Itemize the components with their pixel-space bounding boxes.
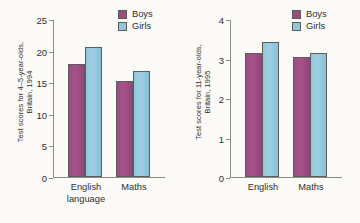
- x-axis-line-left: [53, 177, 165, 178]
- x-axis-label-english: English: [248, 182, 279, 194]
- bar-group-maths: Maths: [293, 20, 329, 177]
- bar-group-english: English: [245, 20, 281, 177]
- y-tick-label-10: 10: [36, 109, 47, 120]
- x-axis-label-english-line1: English: [248, 182, 279, 192]
- x-axis-label-english-language: English language: [67, 182, 105, 205]
- x-axis-label-maths: Maths: [298, 182, 323, 194]
- plot-area-left: 25 20 15 10 5 0: [53, 20, 165, 178]
- legend-item-boys-left: Boys: [118, 9, 153, 19]
- legend-label-boys: Boys: [306, 9, 327, 19]
- y-axis-title-right-line2: Britain, 1995: [203, 71, 212, 114]
- y-tick-label-25: 25: [36, 15, 47, 26]
- y-tick-label-20: 20: [36, 46, 47, 57]
- chart-panel-4-5-year-olds: Test scores for 4–5-year-olds, Britain, …: [0, 0, 180, 223]
- y-axis-title-left: Test scores for 4–5-year-olds, Britain, …: [10, 9, 40, 175]
- bar-english-boys[interactable]: [245, 53, 262, 177]
- legend-label-boys: Boys: [132, 9, 153, 19]
- bars-right: English Maths: [231, 20, 342, 177]
- x-axis-label-english-language-line2: language: [67, 194, 105, 204]
- legend-swatch-boys-icon: [292, 10, 301, 19]
- y-tick-label-0: 0: [42, 173, 47, 184]
- y-axis-title-right-line1: Test scores for 11-year-olds,: [194, 44, 203, 140]
- x-axis-line-right: [230, 177, 342, 178]
- chart-page: Test scores for 4–5-year-olds, Britain, …: [0, 0, 360, 223]
- legend-item-boys-right: Boys: [292, 9, 327, 19]
- bar-maths-boys[interactable]: [116, 81, 133, 177]
- bar-maths-girls[interactable]: [310, 53, 327, 177]
- bar-english-girls[interactable]: [85, 47, 102, 177]
- bar-maths-boys[interactable]: [293, 57, 310, 177]
- y-axis-title-left-line1: Test scores for 4–5-year-olds,: [16, 42, 25, 142]
- chart-panel-11-year-olds: Test scores for 11-year-olds, Britain, 1…: [180, 0, 360, 223]
- y-tick-label-3: 3: [219, 54, 224, 65]
- x-axis-label-maths-line1: Maths: [121, 182, 146, 192]
- y-tick-label-0: 0: [219, 173, 224, 184]
- bar-maths-girls[interactable]: [133, 71, 150, 177]
- y-tick-label-15: 15: [36, 78, 47, 89]
- bar-group-maths: Maths: [116, 20, 152, 177]
- x-axis-label-english-language-line1: English: [71, 182, 102, 192]
- bar-group-english-language: English language: [68, 20, 104, 177]
- y-axis-title-right: Test scores for 11-year-olds, Britain, 1…: [188, 9, 218, 175]
- bar-english-girls[interactable]: [262, 42, 279, 178]
- bars-left: English language Maths: [54, 20, 165, 177]
- legend-swatch-boys-icon: [118, 10, 127, 19]
- x-axis-label-maths-line1: Maths: [298, 182, 323, 192]
- plot-area-right: 4 3 2 1 0: [230, 20, 342, 178]
- bar-english-boys[interactable]: [68, 64, 85, 177]
- y-tick-label-1: 1: [219, 133, 224, 144]
- y-tick-label-5: 5: [42, 141, 47, 152]
- y-axis-title-left-line2: Britain, 1994: [25, 71, 34, 114]
- y-tick-label-4: 4: [219, 15, 224, 26]
- x-axis-label-maths: Maths: [121, 182, 146, 194]
- y-tick-label-2: 2: [219, 94, 224, 105]
